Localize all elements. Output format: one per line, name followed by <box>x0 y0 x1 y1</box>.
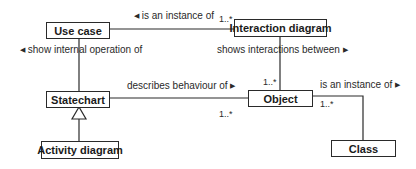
class-box-activity-diagram[interactable]: Activity diagram <box>41 141 119 159</box>
class-box-statechart[interactable]: Statechart <box>46 91 110 108</box>
uml-diagram-canvas: Use case Interaction diagram Statechart … <box>0 0 416 169</box>
class-name: Object <box>263 93 297 105</box>
class-box-interaction-diagram[interactable]: Interaction diagram <box>234 19 327 37</box>
class-box-use-case[interactable]: Use case <box>46 22 110 39</box>
association-label-interaction-object: shows interactions between ▶ <box>217 44 348 55</box>
class-name: Interaction diagram <box>229 22 331 34</box>
association-label-object-class: is an instance of ▶ <box>320 79 400 90</box>
direction-right-icon: ▶ <box>395 81 400 88</box>
association-label-usecase-statechart: ◀ show internal operation of <box>20 44 142 55</box>
multiplicity-object-left: 1..* <box>219 109 233 119</box>
generalization-triangle-icon <box>72 107 86 119</box>
multiplicity-interaction: 1..* <box>219 14 233 24</box>
class-name: Use case <box>54 25 102 37</box>
direction-right-icon: ▶ <box>343 46 348 53</box>
direction-right-icon: ▶ <box>230 82 235 89</box>
class-box-class[interactable]: Class <box>331 140 396 157</box>
class-name: Activity diagram <box>37 144 123 156</box>
class-name: Statechart <box>51 94 105 106</box>
association-label-usecase-interaction: ◀ is an instance of <box>134 10 214 21</box>
direction-left-icon: ◀ <box>20 46 25 53</box>
multiplicity-object-right: 1..* <box>320 99 334 109</box>
association-label-statechart-object: describes behaviour of ▶ <box>127 80 235 91</box>
multiplicity-object-top: 1..* <box>263 77 277 87</box>
class-box-object[interactable]: Object <box>248 90 313 107</box>
direction-left-icon: ◀ <box>134 12 139 19</box>
class-name: Class <box>349 143 378 155</box>
